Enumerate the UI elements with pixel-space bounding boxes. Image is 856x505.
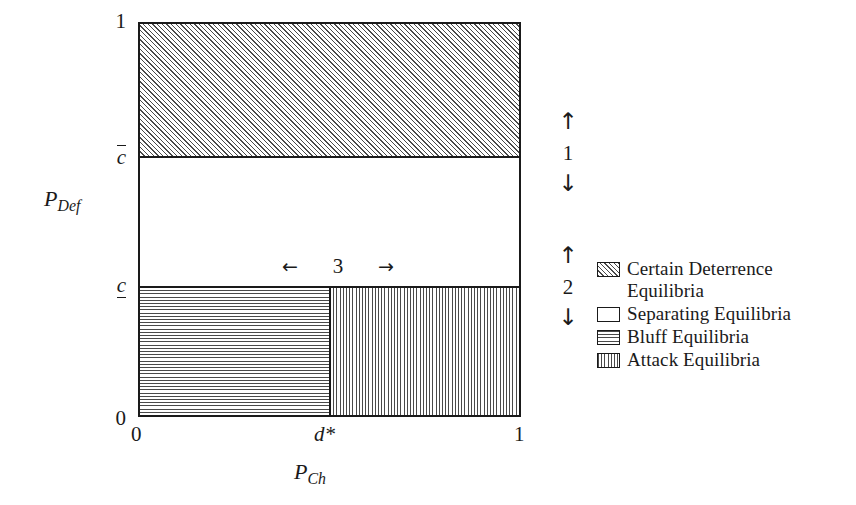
arrow-down-icon: ↓: [558, 174, 577, 194]
legend-item-certain-deterrence: Certain Deterrence Equilibria: [597, 258, 847, 302]
boundary-c-upper: [140, 156, 519, 158]
arrow-down-icon: ↓: [558, 308, 577, 328]
arrow-up-icon: ↑: [558, 112, 577, 132]
figure-canvas: 1 c c 0 0 d* 1 PDef PCh ↑ 1 ↓ ↑ 2 ↓ ← 3: [0, 0, 856, 505]
y-tick-c-overbar: c: [96, 145, 126, 168]
x-tick-d-star: d*: [314, 424, 335, 445]
y-tick-c-underbar: c: [96, 275, 126, 298]
arrow-right-icon: →: [378, 257, 394, 276]
legend-swatch-blank-icon: [597, 307, 620, 322]
region-attack: [330, 287, 519, 415]
annotation-span-3-label: 3: [329, 256, 348, 277]
arrow-up-icon: ↑: [558, 246, 577, 266]
region-certain-deterrence: [140, 24, 519, 157]
legend-swatch-horizontal-lines-icon: [597, 330, 620, 345]
legend-item-label: Separating Equilibria: [627, 303, 791, 325]
legend-swatch-vertical-lines-icon: [597, 353, 620, 368]
c-overbar-glyph: c: [117, 145, 126, 168]
legend-swatch-diagonal-hatch-icon: [597, 262, 620, 277]
c-underbar-glyph: c: [117, 275, 126, 298]
y-tick-0: 0: [96, 408, 126, 429]
legend-item-attack: Attack Equilibria: [597, 349, 847, 371]
x-axis-title: PCh: [294, 461, 326, 483]
region-bluff: [140, 287, 330, 415]
arrow-left-icon: ←: [282, 257, 298, 276]
annotation-span-2-label: 2: [563, 277, 574, 298]
x-tick-1: 1: [514, 424, 525, 445]
boundary-d-star: [329, 286, 331, 415]
plot-area: [138, 22, 521, 417]
y-tick-1: 1: [96, 11, 126, 32]
legend-item-label: Bluff Equilibria: [627, 326, 749, 348]
annotation-span-1-label: 1: [563, 143, 574, 164]
legend-item-separating: Separating Equilibria: [597, 303, 847, 325]
legend: Certain Deterrence Equilibria Separating…: [597, 258, 847, 372]
annotation-span-3: ← 3 →: [282, 256, 394, 277]
annotation-span-2: ↑ 2 ↓: [553, 246, 583, 328]
x-tick-0: 0: [131, 424, 142, 445]
legend-item-label: Attack Equilibria: [627, 349, 760, 371]
legend-item-bluff: Bluff Equilibria: [597, 326, 847, 348]
annotation-span-1: ↑ 1 ↓: [553, 112, 583, 194]
y-axis-title: PDef: [44, 188, 80, 210]
legend-item-label: Certain Deterrence Equilibria: [627, 258, 847, 302]
